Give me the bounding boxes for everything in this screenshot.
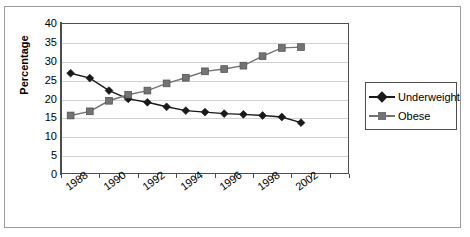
legend-item-obese: Obese [369,106,453,125]
y-tick-label: 35 [31,37,57,47]
y-tick-label: 0 [31,169,57,179]
data-point-underweight [144,98,152,106]
data-point-underweight [163,103,171,111]
data-point-underweight [67,69,75,77]
y-axis-title: Percentage [18,0,30,130]
chart-frame: 4035302520151050 Percentage 198819901992… [4,6,461,228]
y-tick-label: 25 [31,75,57,85]
data-point-obese [298,44,305,51]
data-point-underweight [105,87,113,95]
legend-item-underweight: Underweight [369,87,453,106]
data-point-obese [221,66,228,73]
data-point-underweight [86,74,94,82]
data-point-obese [125,91,132,98]
series-lines [61,23,349,174]
y-tick-label: 10 [31,131,57,141]
y-axis-tick-labels: 4035302520151050 [27,7,57,237]
data-point-obese [144,87,151,94]
data-point-underweight [220,110,228,118]
data-point-underweight [259,112,267,120]
data-point-underweight [182,107,190,115]
legend-marker-square-icon [369,110,395,122]
data-point-obese [202,68,209,75]
data-point-underweight [278,113,286,121]
data-point-underweight [201,108,209,116]
y-tick-label: 5 [31,150,57,160]
data-point-obese [259,53,266,60]
y-tick-label: 15 [31,112,57,122]
legend-marker-diamond-icon [369,91,395,103]
data-point-obese [163,80,170,87]
legend-label-obese: Obese [395,110,430,122]
y-tick-label: 20 [31,94,57,104]
data-point-obese [182,74,189,81]
data-point-underweight [240,110,248,118]
y-tick-label: 30 [31,56,57,66]
data-point-obese [240,62,247,69]
legend-label-underweight: Underweight [395,91,460,103]
data-point-obese [86,108,93,115]
data-point-obese [67,112,74,119]
x-axis-tick-labels: 1988199019921994199619982002 [61,177,361,223]
y-tick-label: 40 [31,18,57,28]
chart-legend: Underweight Obese [365,82,457,130]
data-point-underweight [297,119,305,127]
data-point-obese [278,45,285,52]
plot-area [61,23,349,174]
data-point-obese [106,97,113,104]
